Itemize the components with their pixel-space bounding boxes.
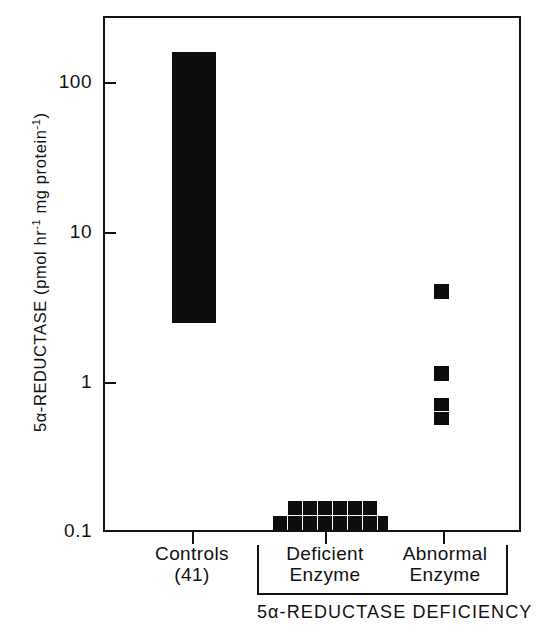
deficient-point — [348, 516, 362, 530]
deficient-point — [333, 516, 347, 530]
abnormal-point-0.62 — [434, 398, 449, 411]
deficient-point — [318, 501, 332, 515]
controls-range-bar — [172, 52, 216, 323]
y-axis-title-sup2: -1 — [30, 119, 42, 130]
deficient-point — [303, 501, 317, 515]
deficient-point — [333, 501, 347, 515]
y-axis-title-sup1: -1 — [30, 219, 42, 230]
deficient-point — [363, 516, 377, 530]
deficient-point — [288, 501, 302, 515]
y-tick-10 — [103, 232, 116, 234]
x-label-controls-line1: Controls — [122, 543, 262, 564]
group-bracket-label: 5α-REDUCTASE DEFICIENCY — [257, 602, 508, 623]
y-axis-title-mid: mg protein — [31, 130, 49, 219]
y-axis-title-pre: 5α-REDUCTASE (pmol hr — [31, 230, 49, 432]
x-label-controls: Controls (41) — [122, 543, 262, 585]
y-tick-100 — [103, 82, 116, 84]
deficient-point — [288, 516, 302, 530]
deficient-point — [348, 501, 362, 515]
abnormal-point-1.15 — [434, 366, 449, 381]
deficient-point — [378, 516, 388, 530]
y-axis-title-post: ) — [31, 112, 49, 118]
y-tick-1 — [103, 382, 116, 384]
deficient-point — [273, 516, 287, 530]
y-axis-title: 5α-REDUCTASE (pmol hr-1 mg protein-1) — [30, 72, 51, 472]
figure-5alpha-reductase-activity: 100 10 1 0.1 5α-REDUCTASE (pmol hr-1 mg … — [0, 0, 553, 644]
x-label-controls-line2: (41) — [122, 564, 262, 585]
group-bracket — [257, 545, 508, 595]
y-tick-label-0.1: 0.1 — [0, 521, 92, 540]
abnormal-point-4.0 — [434, 284, 449, 299]
plot-frame — [103, 16, 521, 532]
deficient-point — [303, 516, 317, 530]
deficient-point — [318, 516, 332, 530]
abnormal-point-0.48 — [434, 412, 449, 425]
deficient-point — [363, 501, 377, 515]
